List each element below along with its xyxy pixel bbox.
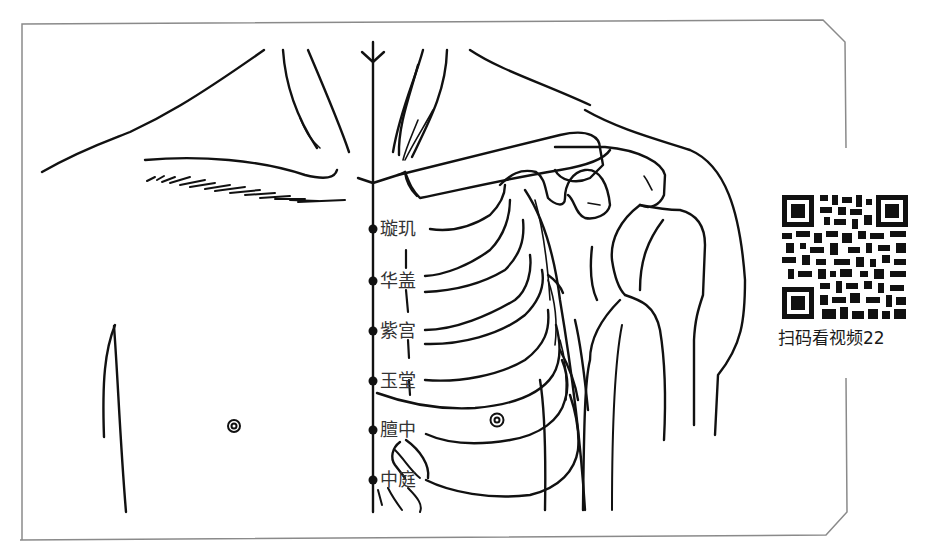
acupoint-dot-xuanji	[369, 225, 378, 234]
scapula-inner	[612, 325, 622, 510]
xiphoid-mid	[388, 488, 402, 510]
acupoint-dot-yutang	[369, 377, 378, 386]
acupoint-label-danzhong: 膻中	[380, 421, 416, 439]
humeral-head	[640, 205, 705, 425]
nipple-left-icon	[228, 420, 240, 432]
qr-caption: 扫码看视频22	[778, 324, 885, 349]
right-clavicle-lower	[405, 150, 610, 198]
scapula-lateral	[625, 295, 665, 440]
acupoint-diagram	[0, 0, 927, 557]
acupoint-dot-danzhong	[369, 426, 378, 435]
acupoint-dot-zhongting	[369, 476, 378, 485]
neck-line-left-1	[283, 50, 317, 148]
acromion-mark	[644, 176, 652, 190]
left-clavicle	[145, 158, 337, 178]
neck-line-right-4	[405, 110, 433, 160]
humeral-inner	[640, 220, 663, 290]
qr-code	[780, 193, 910, 321]
clavicle-hatching	[147, 176, 345, 202]
xiphoid-right	[408, 488, 421, 512]
scapula-medial	[591, 247, 597, 300]
acupoint-label-xuanji: 璇玑	[380, 220, 416, 238]
neck-line-right-6	[470, 50, 590, 105]
left-torso-line-2	[114, 326, 126, 512]
frame-border	[20, 20, 847, 540]
neck-line-left-2	[308, 50, 349, 152]
acupoint-dot-zigong	[369, 327, 378, 336]
jugular-notch	[358, 172, 405, 183]
left-torso-line-1	[103, 325, 115, 437]
acupoint-label-yutang: 玉堂	[380, 372, 416, 390]
xiphoid-left	[378, 490, 382, 505]
left-trapezius-line	[42, 50, 264, 172]
acupoint-label-zhongting: 中庭	[380, 471, 416, 489]
acupoint-label-huagai: 华盖	[380, 272, 416, 290]
acromion-inner	[555, 148, 603, 181]
acromion-mark-2	[588, 203, 600, 205]
acupoint-label-zigong: 紫宫	[380, 322, 416, 340]
scapula-glenoid	[612, 205, 640, 295]
nipple-right-icon	[491, 414, 504, 427]
acupoint-dot-huagai	[369, 277, 378, 286]
